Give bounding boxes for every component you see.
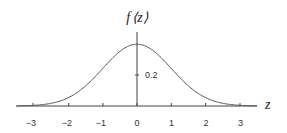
x-tick-label: −2 [62, 118, 72, 128]
normal-density-chart: −3 −2 −1 0 1 2 3 0.2 f⟨z⟩ z [0, 0, 287, 133]
x-tick-label: −3 [26, 118, 36, 128]
x-tick-label: 0 [134, 118, 139, 128]
y-axis-label-arg: ⟨z⟩ [132, 10, 148, 25]
x-tick-label: −1 [96, 118, 106, 128]
y-axis-label: f⟨z⟩ [126, 10, 148, 25]
x-axis-label: z [264, 97, 271, 112]
x-tick-label: 2 [203, 118, 208, 128]
x-tick-label: 1 [169, 118, 174, 128]
y-tick-label: 0.2 [145, 70, 158, 80]
x-tick-label: 3 [238, 118, 243, 128]
